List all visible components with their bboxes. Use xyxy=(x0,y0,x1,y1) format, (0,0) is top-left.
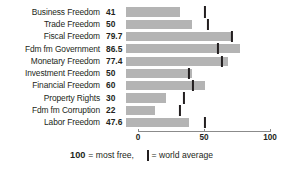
row-category-label: Fiscal Freedom xyxy=(0,32,100,41)
world-average-marker xyxy=(221,56,223,67)
x-axis-tick-label: 0 xyxy=(136,133,141,143)
value-bar xyxy=(126,44,240,53)
row-value-label: 47.6 xyxy=(100,118,126,127)
row-value-label: 30 xyxy=(100,94,126,103)
row-value-label: 50 xyxy=(100,20,126,29)
legend-max-text: = most free, xyxy=(88,150,134,161)
value-bar xyxy=(126,118,189,127)
row-category-label: Fdm fm Corruption xyxy=(0,106,100,115)
row-value-label: 60 xyxy=(100,81,126,90)
chart-row: Business Freedom41 xyxy=(0,6,283,18)
chart-row: Trade Freedom50 xyxy=(0,18,283,30)
value-bar xyxy=(126,93,166,102)
row-plot-area xyxy=(126,6,271,18)
row-plot-area xyxy=(126,55,271,67)
row-category-label: Investment Freedom xyxy=(0,69,100,78)
row-plot-area xyxy=(126,117,271,129)
world-average-marker xyxy=(204,117,206,128)
row-plot-area xyxy=(126,92,271,104)
row-category-label: Property Rights xyxy=(0,94,100,103)
legend-average-text: = world average xyxy=(152,150,213,161)
freedom-index-bar-chart: Business Freedom41Trade Freedom50Fiscal … xyxy=(0,0,283,172)
row-value-label: 22 xyxy=(100,106,126,115)
world-average-marker xyxy=(179,105,181,116)
row-value-label: 79.7 xyxy=(100,32,126,41)
chart-row: Property Rights30 xyxy=(0,92,283,104)
row-category-label: Trade Freedom xyxy=(0,20,100,29)
chart-row: Labor Freedom47.6 xyxy=(0,117,283,129)
legend-max-value: 100 xyxy=(70,150,85,161)
world-average-marker xyxy=(231,31,233,42)
row-value-label: 41 xyxy=(100,8,126,17)
x-axis-tickmark xyxy=(270,129,271,133)
row-plot-area xyxy=(126,31,271,43)
row-plot-area xyxy=(126,104,271,116)
chart-legend: 100 = most free, = world average xyxy=(0,150,283,161)
row-category-label: Monetary Freedom xyxy=(0,57,100,66)
value-bar xyxy=(126,20,192,29)
value-bar xyxy=(126,57,228,66)
row-category-label: Fdm fm Government xyxy=(0,45,100,54)
row-plot-area xyxy=(126,80,271,92)
world-average-marker xyxy=(183,92,185,103)
world-average-tick-icon xyxy=(147,150,149,161)
row-value-label: 50 xyxy=(100,69,126,78)
row-value-label: 86.5 xyxy=(100,45,126,54)
x-axis-tick-label: 100 xyxy=(263,133,277,143)
chart-row: Fiscal Freedom79.7 xyxy=(0,31,283,43)
legend-world-average: = world average xyxy=(147,150,213,161)
row-plot-area xyxy=(126,43,271,55)
x-axis-tick-label: 50 xyxy=(199,133,208,143)
chart-rows: Business Freedom41Trade Freedom50Fiscal … xyxy=(0,6,283,129)
value-bar xyxy=(126,32,231,41)
value-bar xyxy=(126,7,180,16)
chart-row: Investment Freedom50 xyxy=(0,67,283,79)
legend-max-free: 100 = most free, xyxy=(70,150,134,161)
world-average-marker xyxy=(188,68,190,79)
row-value-label: 77.4 xyxy=(100,57,126,66)
world-average-marker xyxy=(207,19,209,30)
row-category-label: Financial Freedom xyxy=(0,81,100,90)
chart-row: Financial Freedom60 xyxy=(0,80,283,92)
value-bar xyxy=(126,69,192,78)
row-plot-area xyxy=(126,67,271,79)
world-average-marker xyxy=(204,6,206,17)
row-category-label: Business Freedom xyxy=(0,8,100,17)
row-plot-area xyxy=(126,18,271,30)
value-bar xyxy=(126,106,155,115)
x-axis-tickmark xyxy=(138,129,139,133)
world-average-marker xyxy=(217,43,219,54)
chart-row: Fdm fm Corruption22 xyxy=(0,104,283,116)
row-category-label: Labor Freedom xyxy=(0,118,100,127)
x-axis: 050100 xyxy=(132,131,278,151)
chart-row: Fdm fm Government86.5 xyxy=(0,43,283,55)
chart-row: Monetary Freedom77.4 xyxy=(0,55,283,67)
x-axis-tickmark xyxy=(204,129,205,133)
world-average-marker xyxy=(192,80,194,91)
